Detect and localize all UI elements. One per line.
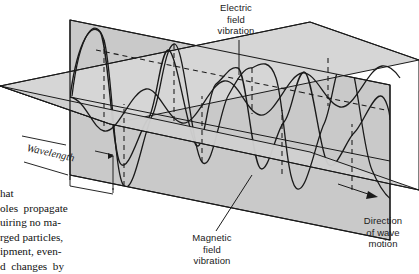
- body-text-line: rged particles,: [0, 230, 98, 245]
- body-text-line: hat: [0, 186, 98, 201]
- body-text-line: oles propagate: [0, 201, 98, 216]
- label-electric-field-vibration: Electric field vibration: [198, 2, 274, 37]
- body-text-line: uiring no ma-: [0, 215, 98, 230]
- label-direction-of-wave-motion: Direction of wave motion: [350, 215, 416, 250]
- body-text-line: ipment, even-: [0, 244, 98, 259]
- body-text-column: hat oles propagate uiring no ma- rged pa…: [0, 186, 98, 274]
- body-text-line: d changes by: [0, 259, 98, 274]
- label-magnetic-field-vibration: Magnetic field vibration: [176, 232, 248, 267]
